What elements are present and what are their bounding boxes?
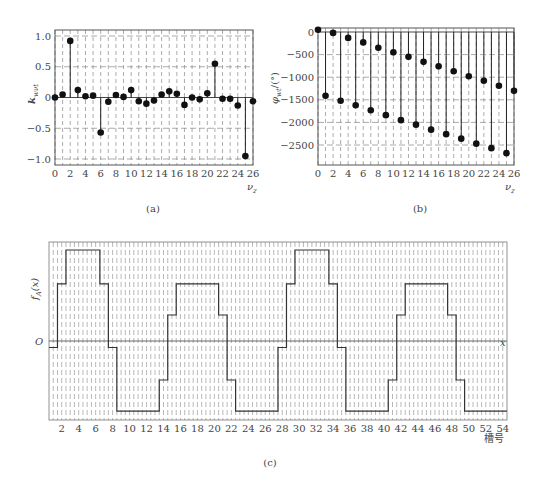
data-point xyxy=(181,102,188,109)
data-point xyxy=(212,60,219,67)
data-point xyxy=(97,129,104,136)
x-tick-label: 22 xyxy=(477,168,490,179)
x-tick-label: 14 xyxy=(157,423,170,434)
data-point xyxy=(227,95,234,102)
data-point xyxy=(398,117,405,124)
data-point xyxy=(82,93,89,100)
x-tick-label: 12 xyxy=(140,423,153,434)
data-point xyxy=(503,150,510,157)
data-point xyxy=(450,68,457,75)
x-tick-label: 4 xyxy=(75,423,81,434)
x-tick-label: 0 xyxy=(52,168,58,179)
data-point xyxy=(413,121,420,128)
data-point xyxy=(367,107,374,114)
data-point xyxy=(174,91,181,98)
x-tick-label: 10 xyxy=(123,423,136,434)
data-point xyxy=(52,94,59,101)
x-tick-label: 6 xyxy=(360,168,366,179)
x-tick-label: 18 xyxy=(447,168,460,179)
x-tick-label: 4 xyxy=(82,168,88,179)
data-point xyxy=(113,92,120,99)
x-tick-label: 18 xyxy=(191,423,204,434)
x-tick-label: 0 xyxy=(315,168,321,179)
data-point xyxy=(420,59,427,66)
x-tick-label: 6 xyxy=(92,423,98,434)
x-tick-label: 26 xyxy=(508,168,521,179)
x-tick-label: 34 xyxy=(327,423,340,434)
x-tick-label: 4 xyxy=(345,168,351,179)
data-point xyxy=(375,45,382,52)
x-tick-label: 44 xyxy=(412,423,425,434)
y-tick-label: −1500 xyxy=(280,94,314,105)
data-point xyxy=(135,98,142,105)
y-tick-label: −2500 xyxy=(280,140,314,151)
data-point xyxy=(204,90,211,97)
x-tick-label: 24 xyxy=(242,423,255,434)
x-tick-label: 6 xyxy=(98,168,104,179)
x-tick-label: 16 xyxy=(432,168,445,179)
x-tick-label: 40 xyxy=(378,423,391,434)
data-point xyxy=(166,88,173,95)
data-point xyxy=(67,38,74,45)
x-tick-label: 18 xyxy=(186,168,199,179)
y-tick-label: −2000 xyxy=(280,117,314,128)
data-point xyxy=(352,102,359,109)
data-point xyxy=(151,97,158,104)
data-point xyxy=(75,87,82,94)
origin-label: O xyxy=(35,336,43,347)
data-point xyxy=(488,145,495,152)
data-point xyxy=(242,153,249,160)
x-tick-label: 10 xyxy=(387,168,400,179)
x-tick-label: 20 xyxy=(201,168,214,179)
data-point xyxy=(330,30,337,37)
x-tick-label: 22 xyxy=(225,423,238,434)
data-point xyxy=(322,92,329,99)
x-tick-label: 14 xyxy=(417,168,430,179)
x-tick-label: 2 xyxy=(67,168,73,179)
x-tick-label: 28 xyxy=(276,423,289,434)
x-tick-label: 8 xyxy=(375,168,381,179)
y-tick-label: −1.0 xyxy=(27,154,51,165)
data-point xyxy=(337,97,344,104)
data-point xyxy=(234,102,241,109)
x-tick-label: 10 xyxy=(125,168,138,179)
x-tick-label: 20 xyxy=(462,168,475,179)
y-tick-label: 0.5 xyxy=(35,61,51,72)
x-tick-label: 12 xyxy=(402,168,415,179)
y-tick-label: −0.5 xyxy=(27,123,51,134)
data-point xyxy=(59,91,66,98)
x-tick-label: 24 xyxy=(493,168,506,179)
data-point xyxy=(428,126,435,133)
chart-a-stem-plot: 1.00.50−0.5−1.002468101214161820222426 xyxy=(27,30,260,179)
data-point xyxy=(158,91,165,98)
y-tick-label: 0 xyxy=(308,27,314,38)
x-axis-label-b: νz xyxy=(505,181,515,195)
data-point xyxy=(511,87,518,94)
x-axis-label-a: νz xyxy=(247,181,257,195)
x-tick-label: 22 xyxy=(216,168,229,179)
x-tick-label: 42 xyxy=(395,423,408,434)
data-point xyxy=(219,95,226,102)
data-point xyxy=(189,94,196,101)
data-point xyxy=(383,112,390,119)
data-point xyxy=(196,96,203,103)
x-tick-label: 16 xyxy=(174,423,187,434)
x-tick-label: 2 xyxy=(59,423,65,434)
data-point xyxy=(481,78,488,85)
data-point xyxy=(435,63,442,70)
x-tick-label: 46 xyxy=(429,423,442,434)
data-point xyxy=(315,26,322,33)
data-point xyxy=(90,92,97,99)
x-tick-label: 48 xyxy=(446,423,459,434)
caption-b: (b) xyxy=(413,203,427,214)
data-point xyxy=(473,140,480,147)
x-tick-label: 36 xyxy=(344,423,357,434)
x-axis-label-c: x xyxy=(500,337,506,348)
data-point xyxy=(143,100,150,107)
y-tick-label: −500 xyxy=(287,49,314,60)
x-tick-label: 50 xyxy=(462,423,475,434)
data-point xyxy=(443,131,450,138)
data-point xyxy=(496,82,503,89)
y-tick-label: 0 xyxy=(45,92,51,103)
data-point xyxy=(405,54,412,61)
